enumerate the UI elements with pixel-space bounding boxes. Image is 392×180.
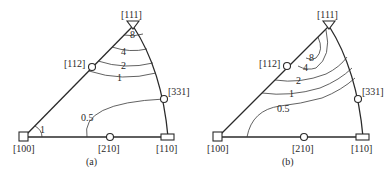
rect-marker-110 [161, 134, 174, 140]
panel-a: 8 4 2 1 0.5 1 [111] [112] [331] [100] [2… [13, 9, 190, 168]
edge-100-111 [218, 26, 329, 137]
contour-0-5 [86, 99, 164, 137]
pole-label-100: [100] [207, 143, 229, 154]
pole-label-112: [112] [259, 58, 280, 69]
pole-label-210: [210] [98, 143, 120, 154]
contour-label-2: 2 [121, 60, 126, 71]
contour-0-5 [247, 78, 355, 137]
contour-label-0-5: 0.5 [277, 103, 290, 114]
edge-111-110 [133, 26, 168, 137]
contour-label-1-corner: 1 [40, 124, 45, 135]
triangle-marker-111 [323, 21, 335, 29]
pole-label-111: [111] [317, 9, 338, 20]
contour-label-8: 8 [309, 52, 314, 63]
panel-caption-b: (b) [282, 156, 294, 168]
contour-4 [112, 47, 147, 51]
contour-label-4: 4 [121, 46, 126, 57]
circle-marker-112 [284, 63, 291, 70]
inverse-pole-figures: 8 4 2 1 0.5 1 [111] [112] [331] [100] [2… [0, 0, 392, 180]
contour-label-0-5: 0.5 [81, 112, 94, 123]
contour-label-1: 1 [289, 88, 294, 99]
pole-label-110: [110] [351, 143, 372, 154]
circle-marker-331 [161, 96, 168, 103]
circle-marker-210 [107, 134, 114, 141]
circle-marker-112 [89, 64, 96, 71]
panel-b: 8 4 2 1 0.5 [111] [112] [331] [100] [210… [207, 9, 384, 168]
pole-label-111: [111] [121, 9, 142, 20]
pole-label-210: [210] [292, 143, 314, 154]
rect-marker-110 [356, 134, 369, 140]
contour-1 [89, 71, 156, 77]
square-marker-100 [213, 132, 222, 141]
pole-label-100: [100] [13, 143, 35, 154]
triangle-marker-111 [127, 21, 139, 29]
contour-label-8: 8 [130, 29, 135, 40]
circle-marker-331 [355, 96, 362, 103]
contour-label-4: 4 [303, 62, 308, 73]
pole-label-331: [331] [362, 86, 384, 97]
circle-marker-210 [301, 134, 308, 141]
square-marker-100 [19, 132, 28, 141]
pole-label-110: [110] [156, 143, 177, 154]
contour-label-2: 2 [296, 75, 301, 86]
panel-caption-a: (a) [86, 156, 97, 168]
pole-label-331: [331] [168, 86, 190, 97]
contour-label-1: 1 [117, 72, 122, 83]
pole-label-112: [112] [64, 58, 85, 69]
